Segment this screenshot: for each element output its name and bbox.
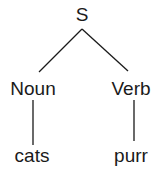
- parse-tree-diagram: S Noun Verb cats purr: [0, 0, 161, 169]
- node-noun: Noun: [10, 79, 55, 98]
- node-verb: Verb: [111, 79, 150, 98]
- edge-s-noun: [39, 29, 82, 72]
- node-root-s: S: [76, 5, 89, 24]
- edge-s-verb: [82, 29, 128, 71]
- leaf-purr: purr: [114, 146, 148, 165]
- leaf-cats: cats: [15, 146, 50, 165]
